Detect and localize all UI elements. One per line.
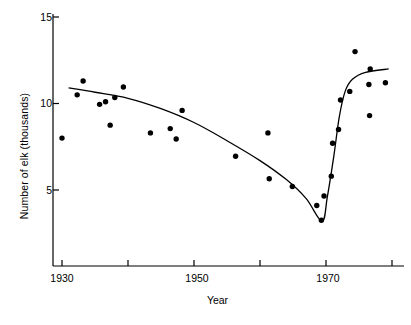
data-point: [267, 176, 272, 181]
data-point: [321, 193, 326, 198]
data-point: [329, 173, 334, 178]
data-point: [59, 135, 64, 140]
data-point: [80, 78, 85, 83]
data-point: [383, 80, 388, 85]
data-point: [179, 108, 184, 113]
data-point: [265, 130, 270, 135]
fitted-trend-line: [69, 69, 389, 221]
data-point: [290, 184, 295, 189]
elk-population-chart: Number of elk (thousands) 15 10 5 1930 1…: [0, 0, 411, 325]
data-points: [59, 49, 388, 223]
data-point: [121, 84, 126, 89]
data-point: [112, 95, 117, 100]
data-point: [367, 113, 372, 118]
data-point: [107, 122, 112, 127]
data-point: [336, 127, 341, 132]
data-point: [173, 136, 178, 141]
data-point: [347, 89, 352, 94]
data-point: [148, 130, 153, 135]
data-point: [74, 92, 79, 97]
data-point: [368, 66, 373, 71]
x-axis-ticks: [62, 260, 392, 266]
data-point: [366, 82, 371, 87]
data-point: [97, 102, 102, 107]
data-point: [352, 49, 357, 54]
data-point: [314, 203, 319, 208]
data-point: [233, 154, 238, 159]
data-point: [330, 141, 335, 146]
data-point: [319, 218, 324, 223]
axis-lines: [53, 14, 404, 266]
y-axis-ticks: [53, 17, 59, 190]
data-point: [103, 99, 108, 104]
plot-area: [0, 0, 411, 325]
data-point: [338, 97, 343, 102]
data-point: [168, 126, 173, 131]
